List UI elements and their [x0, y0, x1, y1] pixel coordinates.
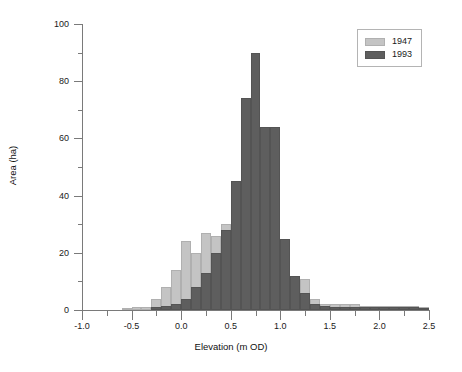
x-minor-tick-mark — [156, 311, 157, 316]
chart-page: 020406080100 -1.0-0.50.00.51.01.52.02.5 … — [0, 0, 462, 372]
histogram-bar — [290, 276, 300, 310]
histogram-bar — [251, 53, 261, 310]
histogram-bar — [221, 230, 231, 310]
y-minor-tick-mark — [78, 53, 83, 54]
histogram-bar — [270, 127, 280, 310]
histogram-bar — [260, 127, 270, 310]
histogram-bar — [181, 299, 191, 310]
x-tick-mark — [181, 311, 182, 320]
x-tick-label: -1.0 — [59, 322, 105, 331]
x-axis-title: Elevation (m OD) — [0, 341, 462, 352]
y-tick-label: 100 — [29, 20, 69, 29]
y-minor-tick-mark — [78, 281, 83, 282]
histogram-bar — [409, 307, 419, 310]
histogram-bar — [340, 307, 350, 310]
y-minor-tick-mark — [78, 167, 83, 168]
legend-swatch-1947-icon — [365, 38, 385, 46]
x-tick-mark — [280, 311, 281, 320]
histogram-bar — [211, 253, 221, 310]
histogram-bar — [191, 287, 201, 310]
histogram-bar — [231, 181, 241, 310]
legend-label-1947: 1947 — [392, 37, 412, 46]
histogram-bar — [151, 307, 161, 310]
y-tick-mark — [74, 24, 83, 25]
x-minor-tick-mark — [206, 311, 207, 316]
x-tick-label: 0.0 — [158, 322, 204, 331]
histogram-bar — [330, 307, 340, 310]
x-minor-tick-mark — [107, 311, 108, 316]
x-tick-mark — [132, 311, 133, 320]
legend-item-1947[interactable]: 1947 — [365, 35, 412, 48]
x-tick-label: 2.5 — [406, 322, 452, 331]
histogram-bar — [161, 306, 171, 310]
histogram-bar — [241, 98, 251, 310]
y-minor-tick-mark — [78, 224, 83, 225]
y-tick-mark — [74, 81, 83, 82]
legend-swatch-1993-icon — [365, 51, 385, 59]
histogram-bar — [300, 293, 310, 310]
y-tick-mark — [74, 253, 83, 254]
y-tick-label: 80 — [29, 77, 69, 86]
chart-legend: 1947 1993 — [357, 29, 422, 67]
histogram-bar — [399, 307, 409, 310]
histogram-bar — [171, 304, 181, 310]
x-minor-tick-mark — [305, 311, 306, 316]
x-tick-label: 1.0 — [257, 322, 303, 331]
x-tick-mark — [330, 311, 331, 320]
y-tick-label: 40 — [29, 192, 69, 201]
histogram-bar — [389, 307, 399, 310]
y-tick-mark — [74, 196, 83, 197]
x-minor-tick-mark — [256, 311, 257, 316]
histogram-bar — [280, 239, 290, 311]
histogram-bar — [350, 307, 360, 310]
y-axis-title: Area (ha) — [7, 136, 18, 196]
x-minor-tick-mark — [355, 311, 356, 316]
histogram-bar — [320, 306, 330, 310]
y-tick-label: 0 — [29, 306, 69, 315]
x-tick-mark — [379, 311, 380, 320]
x-tick-label: 2.0 — [356, 322, 402, 331]
x-tick-mark — [231, 311, 232, 320]
histogram-bar — [310, 304, 320, 310]
x-minor-tick-mark — [404, 311, 405, 316]
histogram-bar — [122, 308, 132, 310]
y-tick-label: 20 — [29, 249, 69, 258]
x-tick-label: 0.5 — [208, 322, 254, 331]
x-tick-mark — [429, 311, 430, 320]
y-minor-tick-mark — [78, 110, 83, 111]
histogram-bar — [201, 273, 211, 310]
legend-label-1993: 1993 — [392, 50, 412, 59]
x-tick-label: 1.5 — [307, 322, 353, 331]
histogram-bar — [370, 307, 380, 310]
legend-item-1993[interactable]: 1993 — [365, 48, 412, 61]
histogram-bar — [141, 307, 151, 310]
x-tick-mark — [82, 311, 83, 320]
histogram-bar — [419, 308, 429, 310]
y-tick-mark — [74, 138, 83, 139]
histogram-bar — [132, 307, 142, 310]
y-tick-label: 60 — [29, 134, 69, 143]
histogram-bar — [360, 307, 370, 310]
histogram-bar — [379, 307, 389, 310]
x-tick-label: -0.5 — [109, 322, 155, 331]
